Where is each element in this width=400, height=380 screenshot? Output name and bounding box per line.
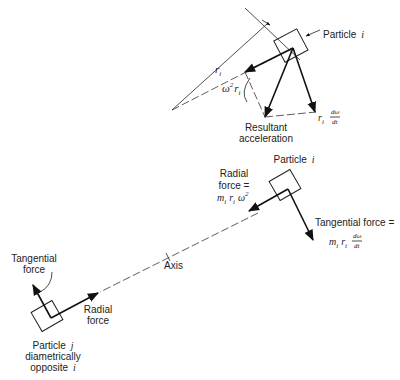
particle-i-box-bottom [269, 169, 301, 200]
particle-j-label-line3: opposite i [30, 362, 76, 373]
top-acceleration-diagram: Particle i ri ω2ri ri dω dt Resultant ac… [172, 8, 364, 144]
radial-force-label-line1: Radial [220, 168, 248, 179]
particle-i-box [274, 29, 308, 62]
bottom-force-diagram: Axis Particle i Radial force = miriω2 Ta… [11, 154, 394, 373]
tangential-acceleration-arrow-icon [293, 48, 315, 112]
radius-dimension-line [172, 23, 268, 110]
resultant-acceleration-arrow-icon [265, 48, 293, 117]
particle-j-label-line2: diametrically [25, 351, 81, 362]
particle-j-label-line1: Particle j [33, 340, 74, 351]
radial-acceleration-arrow-icon [245, 48, 293, 72]
svg-text:dω: dω [353, 232, 362, 240]
omega-label-leader [244, 78, 250, 102]
particle-j-radial-label-line1: Radial [84, 304, 112, 315]
particle-j-box [31, 300, 63, 331]
resultant-label-line1: Resultant [245, 122, 287, 133]
tangential-force-formula: miri dω dt [329, 232, 362, 250]
radius-arrowhead-icon [262, 20, 270, 25]
parallelogram-dashed-line [265, 112, 316, 117]
bottom-particle-i-label: Particle i [274, 154, 315, 165]
radial-force-formula: miriω2 [217, 190, 249, 206]
parallelogram-dashed-line [245, 72, 265, 117]
tangential-acceleration-label: ri dω dt [318, 108, 340, 126]
svg-text:ri: ri [318, 112, 324, 126]
particle-j-tangential-label-line1: Tangential [11, 253, 57, 264]
tangential-force-label: Tangential force = [315, 217, 394, 228]
particle-j-tangential-label-line2: force [23, 264, 46, 275]
svg-text:dt: dt [354, 242, 361, 250]
radial-acceleration-label: ω2ri [222, 81, 241, 97]
svg-text:dω: dω [331, 108, 340, 116]
svg-text:miri: miri [329, 236, 347, 250]
tangential-leader [40, 272, 52, 292]
radius-label: ri [215, 63, 221, 78]
particle-j-tangential-arrow-icon [33, 285, 51, 318]
rotation-diagram: Particle i ri ω2ri ri dω dt Resultant ac… [0, 0, 400, 380]
particle-j-radial-label-line2: force [87, 315, 110, 326]
top-particle-label: Particle i [323, 29, 364, 40]
radial-force-arrow-icon [249, 189, 288, 211]
svg-text:dt: dt [332, 118, 339, 126]
axis-label: Axis [164, 260, 183, 271]
tangential-force-arrow-icon [288, 189, 313, 240]
axis-dashed-line [100, 213, 258, 292]
resultant-label-line2: acceleration [239, 133, 293, 144]
particle-leader-arrow-icon [306, 30, 320, 36]
